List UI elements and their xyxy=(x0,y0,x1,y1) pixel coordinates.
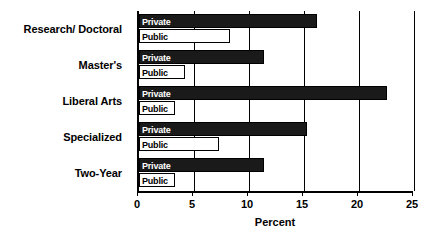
category-label-liberal-arts: Liberal Arts xyxy=(0,95,122,107)
bar-public-liberal-arts[interactable]: Public xyxy=(139,101,175,115)
bar-label-public: Public xyxy=(142,102,168,116)
x-tick-20 xyxy=(357,191,358,196)
bar-group-specialized: Private Public xyxy=(139,119,414,155)
bar-public-two-year[interactable]: Public xyxy=(139,173,175,187)
bar-label-public: Public xyxy=(142,138,168,152)
x-tick-15 xyxy=(302,191,303,196)
x-axis-title: Percent xyxy=(137,216,413,228)
bar-label-public: Public xyxy=(142,30,168,44)
x-tick-5 xyxy=(192,191,193,196)
bar-label-private: Private xyxy=(142,123,171,137)
bar-label-private: Private xyxy=(142,51,171,65)
bar-label-public: Public xyxy=(142,66,168,80)
bar-private-liberal-arts[interactable]: Private xyxy=(139,86,387,100)
bar-label-private: Private xyxy=(142,15,171,29)
gridline-25 xyxy=(414,11,415,191)
bar-group-research-doctoral: Private Public xyxy=(139,11,414,47)
bar-public-masters[interactable]: Public xyxy=(139,65,185,79)
category-label-research-doctoral: Research/ Doctoral xyxy=(0,23,122,35)
chart-title xyxy=(137,0,413,6)
x-axis-line xyxy=(137,191,413,193)
x-tick-0 xyxy=(137,191,138,196)
bar-label-public: Public xyxy=(142,174,168,188)
bar-group-two-year: Private Public xyxy=(139,155,414,191)
bar-chart: Research/ Doctoral Master's Liberal Arts… xyxy=(0,0,426,235)
bar-private-specialized[interactable]: Private xyxy=(139,122,307,136)
bar-public-specialized[interactable]: Public xyxy=(139,137,219,151)
x-tick-label-20: 20 xyxy=(337,198,377,210)
bar-private-masters[interactable]: Private xyxy=(139,50,264,64)
x-tick-label-10: 10 xyxy=(227,198,267,210)
x-tick-10 xyxy=(247,191,248,196)
x-tick-25 xyxy=(412,191,413,196)
x-tick-label-0: 0 xyxy=(117,198,157,210)
bar-private-research-doctoral[interactable]: Private xyxy=(139,14,317,28)
x-tick-label-15: 15 xyxy=(282,198,322,210)
x-tick-label-25: 25 xyxy=(392,198,426,210)
bar-private-two-year[interactable]: Private xyxy=(139,158,264,172)
bar-label-private: Private xyxy=(142,159,171,173)
y-axis-category-labels: Research/ Doctoral Master's Liberal Arts… xyxy=(0,11,128,191)
category-label-specialized: Specialized xyxy=(0,131,122,143)
x-tick-label-5: 5 xyxy=(172,198,212,210)
bar-group-liberal-arts: Private Public xyxy=(139,83,414,119)
category-label-two-year: Two-Year xyxy=(0,167,122,179)
plot-area: Private Public Private Public Private Pu… xyxy=(137,11,414,191)
bar-group-masters: Private Public xyxy=(139,47,414,83)
bar-label-private: Private xyxy=(142,87,171,101)
bar-public-research-doctoral[interactable]: Public xyxy=(139,29,230,43)
category-label-masters: Master's xyxy=(0,59,122,71)
